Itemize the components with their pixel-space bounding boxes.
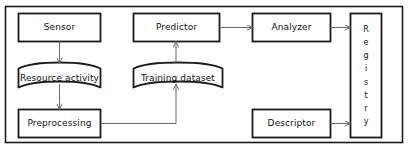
node-descriptor[interactable]: [253, 110, 331, 138]
node-predictor[interactable]: [134, 14, 220, 42]
node-registry[interactable]: [351, 14, 382, 138]
node-analyzer[interactable]: [253, 14, 331, 42]
diagram-svg: [0, 0, 408, 149]
node-sensor[interactable]: [19, 14, 101, 42]
diagram-canvas: Sensor Resource activity Preprocessing T…: [0, 0, 408, 149]
node-preprocessing[interactable]: [19, 110, 101, 138]
